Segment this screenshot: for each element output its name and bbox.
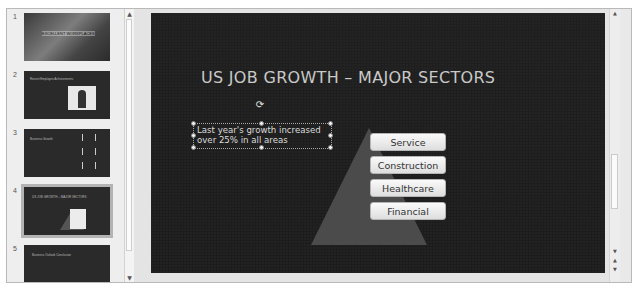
next-slide-icon[interactable]: ▼	[612, 267, 618, 272]
thumbnail-number: 2	[13, 71, 17, 78]
scroll-up-arrow-icon[interactable]: ▲	[612, 11, 618, 16]
thumbnail-scrollbar[interactable]: ▲ ▼	[124, 9, 134, 282]
scrollbar-thumb[interactable]	[611, 154, 618, 209]
scrollbar-thumb[interactable]	[126, 19, 132, 251]
slide-thumbnail-3[interactable]: Business Growth	[24, 129, 110, 177]
resize-handle[interactable]	[191, 133, 196, 138]
slide-title[interactable]: US JOB GROWTH – MAJOR SECTORS	[201, 68, 495, 87]
slide-thumbnail-4[interactable]: US JOB GROWTH – MAJOR SECTORS	[24, 187, 110, 235]
resize-handle[interactable]	[259, 145, 264, 150]
slide-thumbnail-2[interactable]: Recent Employee Achievements	[24, 71, 110, 119]
scroll-down-arrow-icon[interactable]: ▼	[612, 249, 618, 254]
scroll-down-arrow-icon[interactable]: ▼	[126, 274, 133, 281]
thumbnail-title: US JOB GROWTH – MAJOR SECTORS	[32, 195, 86, 199]
slide-thumbnail-1[interactable]: EXCELLENT WORKPLACES	[24, 13, 110, 61]
rotate-handle-icon[interactable]: ⟳	[255, 100, 265, 110]
thumbnail-number: 1	[13, 13, 17, 20]
photo-placeholder	[68, 86, 96, 110]
thumbnail-title: Business Outlook Conclusion	[32, 253, 71, 257]
pyramid-item-construction[interactable]: Construction	[370, 156, 446, 174]
pyramid-item-financial[interactable]: Financial	[370, 202, 446, 220]
thumbnail-number: 4	[13, 187, 17, 194]
resize-handle[interactable]	[259, 121, 264, 126]
thumbnail-title: EXCELLENT WORKPLACES	[42, 31, 95, 36]
thumbnail-number: 5	[13, 245, 17, 252]
textbox-content[interactable]: Last year's growth increased over 25% in…	[197, 125, 321, 145]
pyramid-item-service[interactable]: Service	[370, 133, 446, 151]
slide-thumbnail-5[interactable]: Business Outlook Conclusion	[24, 245, 110, 282]
slide-thumbnail-pane: 1 EXCELLENT WORKPLACES 2 Recent Employee…	[7, 9, 124, 282]
thumbnail-title: Recent Employee Achievements	[30, 77, 73, 81]
resize-handle[interactable]	[328, 121, 333, 126]
scroll-up-arrow-icon[interactable]: ▲	[126, 10, 133, 17]
slide-canvas[interactable]: US JOB GROWTH – MAJOR SECTORS ⟳ Last yea…	[151, 13, 605, 273]
powerpoint-normal-view: 1 EXCELLENT WORKPLACES 2 Recent Employee…	[6, 8, 632, 283]
editor-scrollbar[interactable]: ▲ ▼ ▲ ▼	[609, 9, 620, 282]
thumbnail-title: Business Growth	[30, 137, 53, 141]
pyramid-item-healthcare[interactable]: Healthcare	[370, 179, 446, 197]
thumbnail-number: 3	[13, 129, 17, 136]
resize-handle[interactable]	[191, 121, 196, 126]
slide-editor-pane: US JOB GROWTH – MAJOR SECTORS ⟳ Last yea…	[134, 9, 620, 282]
previous-slide-icon[interactable]: ▲	[612, 258, 618, 263]
resize-handle[interactable]	[191, 145, 196, 150]
